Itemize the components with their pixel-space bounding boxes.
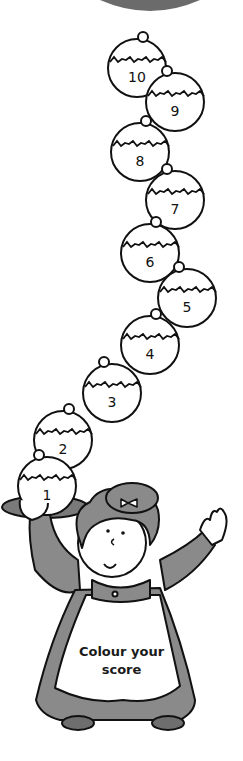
pudding-number: 5 <box>183 299 192 315</box>
top-disc-shape <box>100 0 200 11</box>
pudding-number: 9 <box>171 103 180 119</box>
instruction-line-2: score <box>0 662 243 677</box>
pudding-number: 4 <box>146 346 155 362</box>
pudding-number: 6 <box>146 254 155 270</box>
instruction-line-1: Colour your <box>0 644 243 659</box>
pudding-number: 2 <box>59 441 68 457</box>
woman-figure <box>20 483 227 730</box>
pudding-number: 7 <box>171 201 180 217</box>
pudding-number: 1 <box>43 487 52 503</box>
pudding-number: 3 <box>108 394 117 410</box>
pudding-number: 8 <box>136 153 145 169</box>
pudding-number: 10 <box>128 69 146 85</box>
pudding-stack: 10987654321 <box>18 32 216 515</box>
